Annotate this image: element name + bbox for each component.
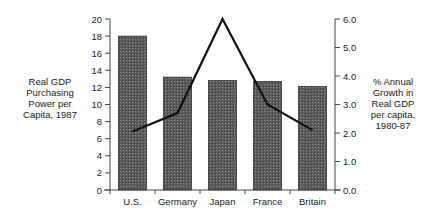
right-tick-label: 1.0: [343, 156, 356, 167]
left-tick-label: 20: [91, 14, 102, 25]
right-tick-label: 5.0: [343, 42, 356, 53]
left-tick-label: 18: [91, 31, 102, 42]
left-tick-label: 8: [97, 116, 102, 127]
left-tick-label: 6: [97, 133, 102, 144]
right-tick-label: 2.0: [343, 128, 356, 139]
right-tick-label: 4.0: [343, 71, 356, 82]
category-label: Britain: [299, 196, 326, 207]
left-axis: 02468101214161820: [91, 14, 110, 196]
category-label: Japan: [210, 196, 236, 207]
right-tick-label: 6.0: [343, 14, 356, 25]
right-tick-label: 0.0: [343, 185, 356, 196]
left-tick-label: 16: [91, 48, 102, 59]
bar: [299, 87, 327, 190]
left-tick-label: 10: [91, 99, 102, 110]
category-label: France: [253, 196, 283, 207]
right-axis: 0.01.02.03.04.05.06.0: [335, 14, 356, 196]
category-label: Germany: [158, 196, 197, 207]
bar: [209, 81, 237, 190]
right-tick-label: 3.0: [343, 99, 356, 110]
left-tick-label: 0: [97, 185, 102, 196]
bar-series: [119, 36, 327, 190]
chart: 02468101214161820 0.01.02.03.04.05.06.0 …: [0, 0, 431, 223]
left-tick-label: 4: [97, 150, 102, 161]
left-tick-label: 12: [91, 82, 102, 93]
bar: [254, 81, 282, 190]
bar: [119, 36, 147, 190]
category-label: U.S.: [123, 196, 141, 207]
x-axis: U.S.GermanyJapanFranceBritain: [104, 190, 341, 207]
left-tick-label: 2: [97, 167, 102, 178]
left-tick-label: 14: [91, 65, 102, 76]
